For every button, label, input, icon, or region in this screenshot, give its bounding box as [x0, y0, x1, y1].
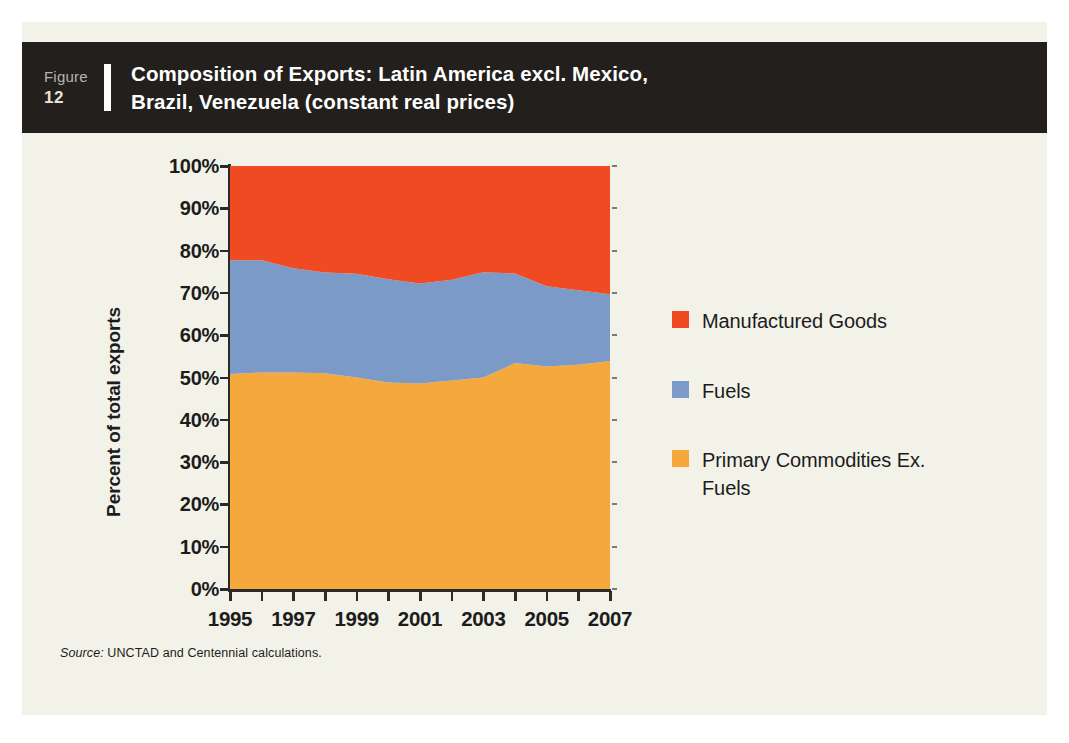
y-tick-mark-right [612, 461, 617, 463]
y-tick-mark-right [612, 250, 617, 252]
y-tick-mark-right [612, 503, 617, 505]
area-series-primary-commodities [230, 361, 610, 589]
y-tick-mark-right [612, 165, 617, 167]
y-tick-mark-right [612, 292, 617, 294]
y-tick-mark-right [612, 546, 617, 548]
x-tick-mark [451, 591, 454, 601]
figure-number: 12 [44, 88, 104, 108]
y-tick-mark-right [612, 377, 617, 379]
x-tick-mark [577, 591, 580, 601]
figure-header-band: Figure 12 Composition of Exports: Latin … [22, 42, 1047, 133]
legend-item[interactable]: Fuels [672, 378, 982, 406]
y-tick-label: 40% [134, 408, 219, 431]
legend-swatch-icon [672, 381, 689, 398]
y-axis-tick-labels: 100%90%80%70%60%50%40%30%20%10%0% [134, 166, 219, 589]
figure-title-line-2: Brazil, Venezuela (constant real prices) [131, 88, 648, 115]
legend-item[interactable]: Primary Commodities Ex. Fuels [672, 447, 982, 502]
figure-panel: Figure 12 Composition of Exports: Latin … [22, 22, 1047, 715]
x-tick-mark [356, 591, 359, 601]
y-tick-mark [220, 250, 229, 253]
y-tick-mark [220, 377, 229, 380]
x-tick-label: 1997 [271, 607, 315, 631]
x-tick-mark [609, 591, 612, 601]
legend-label: Primary Commodities Ex. Fuels [702, 447, 952, 502]
y-tick-mark [220, 503, 229, 506]
source-prefix: Source: [60, 646, 104, 660]
y-tick-mark-right [612, 334, 617, 336]
x-tick-label: 2001 [398, 607, 442, 631]
x-tick-mark [482, 591, 485, 601]
y-tick-mark [220, 334, 229, 337]
y-tick-mark [220, 207, 229, 210]
x-tick-mark [387, 591, 390, 601]
x-tick-label: 2003 [461, 607, 505, 631]
x-tick-mark [292, 591, 295, 601]
y-tick-mark [220, 419, 229, 422]
y-tick-label: 30% [134, 451, 219, 474]
y-tick-label: 20% [134, 493, 219, 516]
legend-swatch-icon [672, 450, 689, 467]
y-tick-mark [220, 588, 229, 591]
source-note: Source: UNCTAD and Centennial calculatio… [60, 646, 322, 660]
y-tick-label: 80% [134, 239, 219, 262]
y-tick-mark [220, 165, 229, 168]
x-tick-mark [229, 591, 232, 601]
y-tick-label: 0% [134, 578, 219, 601]
x-tick-label: 2007 [588, 607, 632, 631]
legend-swatch-icon [672, 311, 689, 328]
stacked-area-plot [230, 166, 610, 589]
legend-label: Fuels [702, 378, 750, 406]
x-tick-mark [419, 591, 422, 601]
figure-title: Composition of Exports: Latin America ex… [131, 60, 648, 114]
figure-label-word: Figure [44, 68, 104, 85]
x-tick-label: 1995 [208, 607, 252, 631]
x-tick-mark [324, 591, 327, 601]
y-tick-mark [220, 546, 229, 549]
figure-title-line-1: Composition of Exports: Latin America ex… [131, 60, 648, 87]
plot-area [230, 166, 610, 589]
y-tick-mark-right [612, 207, 617, 209]
figure-number-block: Figure 12 [22, 68, 104, 108]
y-tick-label: 60% [134, 324, 219, 347]
x-tick-label: 2005 [524, 607, 568, 631]
y-tick-mark [220, 292, 229, 295]
y-tick-label: 100% [134, 155, 219, 178]
chart-area: Percent of total exports 100%90%80%70%60… [22, 133, 1047, 715]
y-tick-label: 50% [134, 366, 219, 389]
y-tick-label: 70% [134, 281, 219, 304]
y-tick-label: 90% [134, 197, 219, 220]
x-tick-mark [514, 591, 517, 601]
legend-item[interactable]: Manufactured Goods [672, 308, 982, 336]
y-tick-mark-right [612, 588, 617, 590]
chart-legend: Manufactured GoodsFuelsPrimary Commoditi… [672, 308, 982, 544]
y-tick-mark [220, 461, 229, 464]
x-tick-mark [546, 591, 549, 601]
source-text: UNCTAD and Centennial calculations. [107, 646, 321, 660]
x-tick-label: 1999 [334, 607, 378, 631]
legend-label: Manufactured Goods [702, 308, 887, 336]
x-tick-mark [261, 591, 264, 601]
y-tick-label: 10% [134, 535, 219, 558]
y-tick-mark-right [612, 419, 617, 421]
y-axis-title: Percent of total exports [103, 262, 125, 562]
x-axis-tick-labels: 1995199719992001200320052007 [172, 607, 692, 641]
header-divider-rule [104, 64, 111, 111]
